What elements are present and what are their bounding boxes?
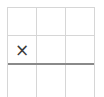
- cell-2-1[interactable]: [37, 65, 65, 90]
- cell-0-1[interactable]: [37, 8, 65, 36]
- cell-0-0[interactable]: [8, 8, 36, 36]
- cell-2-0[interactable]: [8, 65, 36, 90]
- cell-1-0[interactable]: ×: [8, 36, 36, 64]
- cell-2-2[interactable]: [66, 65, 94, 90]
- x-mark-icon: ×: [15, 42, 29, 59]
- cell-1-1[interactable]: [37, 36, 65, 64]
- tic-tac-toe-board: ×: [7, 7, 95, 90]
- cell-1-2[interactable]: [66, 36, 94, 64]
- cell-0-2[interactable]: [66, 8, 94, 36]
